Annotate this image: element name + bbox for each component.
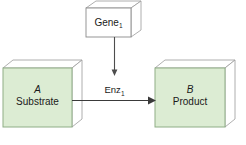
- product-box-top-face: [155, 60, 235, 68]
- enzyme-label: Enz: [105, 84, 122, 95]
- substrate-box-top-face: [3, 60, 82, 68]
- edge-gene-to-enzyme: [112, 37, 118, 76]
- node-gene[interactable]: Gene1: [86, 1, 141, 37]
- substrate-box-side-face: [72, 60, 82, 127]
- enzyme-subscript: 1: [121, 90, 125, 97]
- product-symbol: B: [187, 84, 194, 95]
- substrate-symbol: A: [33, 84, 41, 95]
- svg-text:Gene1: Gene1: [94, 17, 122, 30]
- node-substrate[interactable]: A Substrate: [3, 60, 82, 127]
- gene-to-enzyme-arrowhead: [112, 70, 118, 77]
- enzyme-label-group: Enz1: [105, 84, 125, 97]
- gene-label: Gene: [94, 17, 119, 28]
- diagram-canvas: Gene1 Enz1 A Substrate: [0, 0, 246, 145]
- substrate-label: Substrate: [16, 96, 59, 107]
- gene-subscript: 1: [119, 22, 123, 29]
- product-box-side-face: [225, 60, 235, 127]
- product-label: Product: [173, 96, 208, 107]
- node-product[interactable]: B Product: [155, 60, 235, 127]
- edge-substrate-to-product: [72, 97, 156, 105]
